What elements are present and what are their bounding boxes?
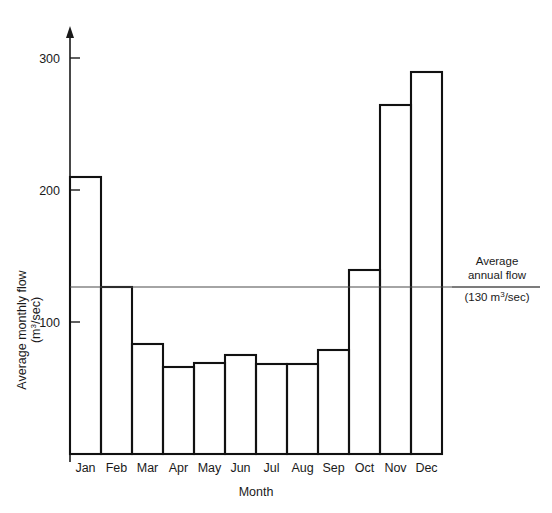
average-annual-flow-annotation: Average annual flow (130 m3/sec) [452,255,540,303]
bar-oct [349,270,380,454]
bar-dec [411,72,442,454]
bar-jan [70,177,101,454]
y-tick-labels: 300 200 100 [39,52,60,330]
y-axis-unit-prefix: (m [29,328,43,343]
bar-feb [101,287,132,454]
x-tick-label-dec: Dec [415,461,437,475]
y-tick-label-200: 200 [39,184,60,198]
y-tick-marks [70,58,80,322]
annotation-line-1: Average [476,255,519,267]
x-tick-label-aug: Aug [291,461,313,475]
x-tick-label-jan: Jan [75,461,95,475]
annotation-value-suffix: /sec) [505,291,530,303]
annotation-value-prefix: (130 m [464,291,500,303]
x-axis-title: Month [239,485,274,499]
x-tick-label-nov: Nov [384,461,407,475]
bar-may [194,363,225,454]
annotation-value: (130 m3/sec) [464,290,529,304]
bar-sep [318,350,349,454]
bar-apr [163,367,194,454]
bar-jun [225,355,256,454]
x-tick-label-mar: Mar [137,461,159,475]
y-axis-title-group: Average monthly flow (m3/sec) [15,269,43,389]
y-axis-arrowhead [66,26,74,38]
bars-group [70,72,442,454]
bar-chart-canvas: 300 200 100 Average monthly flow (m3/sec… [0,0,552,513]
x-tick-label-jun: Jun [230,461,250,475]
x-tick-label-oct: Oct [355,461,375,475]
y-axis-title-unit: (m3/sec) [29,297,44,343]
x-tick-label-jul: Jul [264,461,280,475]
x-tick-label-apr: Apr [169,461,188,475]
bar-mar [132,344,163,454]
y-tick-label-300: 300 [39,52,60,66]
bar-jul [256,364,287,454]
annotation-line-2: annual flow [468,269,527,281]
x-tick-labels: Jan Feb Mar Apr May Jun Jul Aug Sep Oct … [75,461,437,475]
chart-figure: 300 200 100 Average monthly flow (m3/sec… [0,0,552,513]
x-tick-label-may: May [198,461,222,475]
x-tick-label-feb: Feb [106,461,128,475]
bar-nov [380,105,411,454]
x-tick-label-sep: Sep [322,461,344,475]
bar-aug [287,364,318,454]
y-axis-unit-suffix: /sec) [29,297,43,324]
y-axis-title-main: Average monthly flow [15,269,29,389]
